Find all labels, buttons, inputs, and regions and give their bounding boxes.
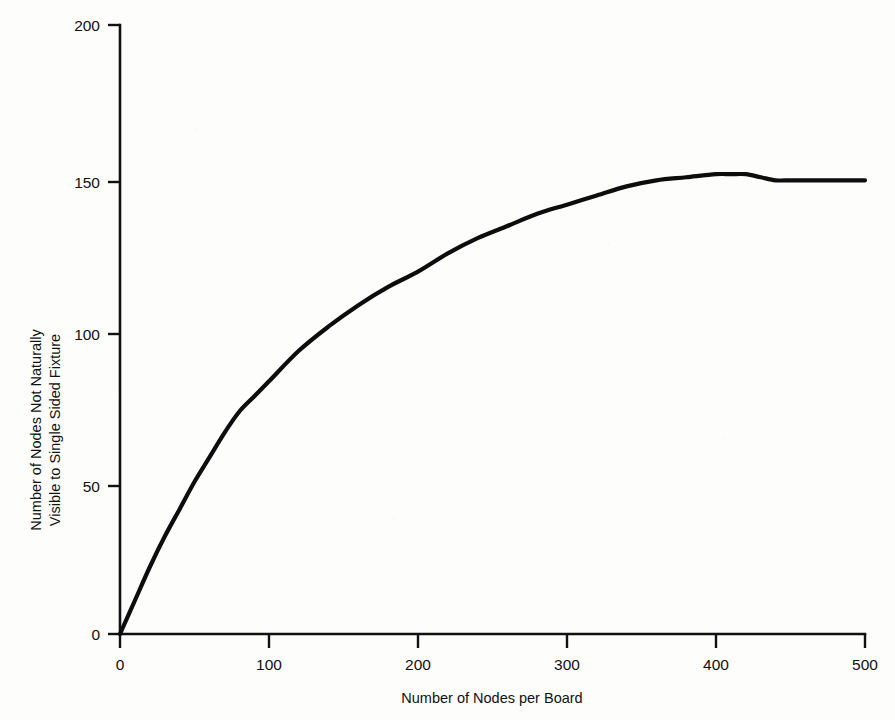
- chart-figure: 200 150 100 50 0 0 100 200 300 400 500 N…: [0, 0, 895, 720]
- y-tick-label-200: 200: [74, 17, 100, 34]
- x-tick-label-300: 300: [554, 656, 580, 673]
- y-tick-label-0: 0: [91, 626, 100, 643]
- y-tick-label-100: 100: [74, 326, 100, 343]
- data-series-line: [120, 174, 865, 634]
- y-axis-title-line2: Visible to Single Sided Fixture: [47, 334, 63, 526]
- x-axis-title: Number of Nodes per Board: [401, 690, 582, 706]
- x-tick-label-500: 500: [852, 656, 878, 673]
- y-axis-title-line1: Number of Nodes Not Naturally: [28, 329, 44, 531]
- y-tick-label-150: 150: [74, 174, 100, 191]
- x-tick-label-400: 400: [703, 656, 729, 673]
- line-chart-plot: 200 150 100 50 0 0 100 200 300 400 500 N…: [0, 0, 895, 720]
- x-tick-label-0: 0: [116, 656, 125, 673]
- x-tick-label-200: 200: [405, 656, 431, 673]
- y-tick-label-50: 50: [83, 478, 101, 495]
- x-tick-label-100: 100: [256, 656, 282, 673]
